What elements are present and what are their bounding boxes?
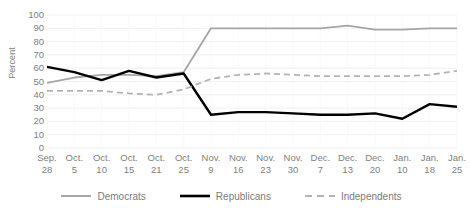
y-axis-tick-labels: 1009080706050403020100	[18, 10, 44, 152]
y-axis-tick: 50	[18, 77, 44, 87]
x-axis-tick: Jan.25	[440, 152, 470, 176]
chart-legend: DemocratsRepublicansIndependents	[0, 186, 463, 206]
gridlines	[47, 15, 457, 148]
x-tick-day: 25	[440, 164, 470, 176]
legend-item-republicans[interactable]: Republicans	[180, 191, 271, 202]
legend-label: Republicans	[216, 191, 271, 202]
series-lines	[47, 26, 457, 119]
y-axis-tick: 60	[18, 63, 44, 73]
y-axis-tick: 40	[18, 90, 44, 100]
legend-item-independents[interactable]: Independents	[305, 191, 402, 202]
y-axis-tick: 100	[18, 10, 44, 20]
y-axis-title: Percent	[7, 33, 17, 93]
y-axis-tick: 10	[18, 130, 44, 140]
legend-label: Independents	[341, 191, 402, 202]
x-tick-month: Jan.	[440, 152, 470, 164]
legend-swatch-icon	[180, 191, 210, 201]
legend-swatch-icon	[305, 191, 335, 201]
y-axis-tick: 90	[18, 23, 44, 33]
legend-label: Democrats	[97, 191, 145, 202]
series-line-democrats	[47, 26, 457, 83]
y-axis-tick: 30	[18, 103, 44, 113]
x-axis-tick-labels: Sep.28Oct.5Oct.10Oct.15Oct.21Oct.25Nov.9…	[47, 152, 457, 182]
y-axis-tick: 80	[18, 37, 44, 47]
legend-swatch-icon	[61, 191, 91, 201]
plot-area	[47, 15, 457, 148]
legend-item-democrats[interactable]: Democrats	[61, 191, 145, 202]
y-axis-tick: 70	[18, 50, 44, 60]
y-axis-tick: 20	[18, 116, 44, 126]
plot-svg	[47, 15, 457, 148]
